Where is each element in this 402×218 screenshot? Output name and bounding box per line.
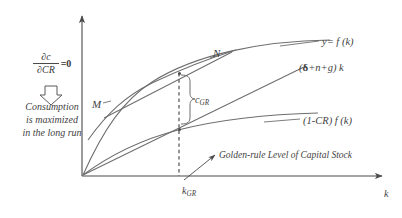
tangent-line-N: [104, 52, 232, 118]
actual-investment-curve: [83, 113, 318, 175]
arrow-spacer: [42, 79, 62, 97]
conclusion-line-1: Consumption: [6, 100, 98, 113]
derivative-annotation-block: ∂c ∂CR =0 Consumption is maximized in th…: [6, 52, 98, 140]
tangent-curve-MN: [88, 50, 236, 140]
derivative-numerator: ∂c: [33, 52, 59, 64]
x-axis-label: k: [384, 188, 388, 200]
curve-label-breakeven: (δ+n+g) k: [299, 61, 344, 74]
conclusion-text: Consumption is maximized in the long run: [6, 100, 98, 140]
derivative-equation: ∂c ∂CR =0: [6, 52, 98, 75]
capital-stock-tick-label: kGR: [182, 185, 196, 199]
derivative-denominator: ∂CR: [33, 64, 59, 75]
tangency-point: [178, 72, 181, 75]
consumption-gap-subscript: GR: [199, 99, 209, 107]
derivative-equals-zero: =0: [59, 58, 71, 69]
consumption-gap-bracket: [181, 75, 195, 124]
golden-rule-diagram: M N y= f (k) (δ+n+g) k (1-CR) f (k) cGR …: [0, 0, 402, 218]
breakeven-suffix: +n+g) k: [308, 62, 343, 73]
conclusion-line-2: is maximized: [6, 113, 98, 126]
conclusion-line-3: in the long run: [6, 126, 98, 139]
golden-rule-annotation: Golden-rule Level of Capital Stock: [219, 150, 352, 161]
curve-label-production: y= f (k): [322, 36, 354, 48]
capital-stock-subscript: GR: [186, 190, 196, 198]
curve-label-N: N: [213, 47, 220, 60]
partial-derivative-fraction: ∂c ∂CR: [33, 52, 59, 75]
curve-label-investment: (1-CR) f (k): [303, 115, 352, 127]
investment-label-leader: [264, 119, 300, 122]
M-label-leader: [103, 101, 111, 103]
consumption-gap-label: cGR: [195, 94, 209, 108]
intersection-point: [178, 128, 181, 131]
